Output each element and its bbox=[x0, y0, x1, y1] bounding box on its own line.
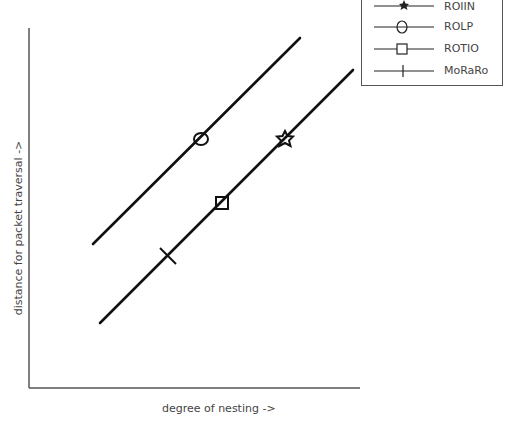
legend-item-moraro: MoRaRo bbox=[362, 63, 502, 81]
x-axis-label: degree of nesting -> bbox=[162, 402, 276, 415]
legend: ROIIN ROLP ROTIO MoRaRo bbox=[361, 0, 503, 86]
legend-item-rotio: ROTIO bbox=[362, 41, 502, 59]
square-marker-icon bbox=[216, 197, 228, 209]
legend-label: ROIIN bbox=[444, 0, 475, 13]
star-icon bbox=[372, 0, 442, 17]
legend-item-roiin: ROIIN bbox=[362, 0, 502, 17]
series-line-rolp bbox=[93, 38, 300, 244]
circle-icon bbox=[372, 19, 442, 37]
plus-icon bbox=[372, 63, 442, 81]
square-icon bbox=[372, 41, 442, 59]
legend-label: MoRaRo bbox=[444, 64, 488, 77]
legend-item-rolp: ROLP bbox=[362, 19, 502, 37]
legend-label: ROTIO bbox=[444, 42, 479, 55]
legend-label: ROLP bbox=[444, 20, 473, 33]
y-axis-label: distance for packet traversal -> bbox=[12, 141, 25, 316]
